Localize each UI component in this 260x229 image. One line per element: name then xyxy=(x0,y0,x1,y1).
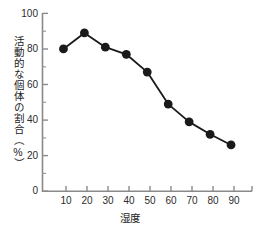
line-chart-figure: 活動的な個体の割合（%） 100 80 60 40 20 0 xyxy=(0,0,260,229)
data-point xyxy=(164,100,173,109)
series-line xyxy=(63,33,231,145)
data-point xyxy=(143,68,152,77)
data-point xyxy=(185,117,194,126)
data-point xyxy=(227,141,236,150)
data-point xyxy=(122,50,131,59)
series-markers xyxy=(59,29,235,150)
chart-screenshot: 活動的な個体の割合（%） 100 80 60 40 20 0 xyxy=(0,0,260,229)
x-axis-title: 湿度 xyxy=(0,210,260,225)
data-point xyxy=(59,45,68,54)
data-point xyxy=(206,130,215,139)
x-tick-label-90: 90 xyxy=(222,195,246,206)
data-point xyxy=(101,43,110,52)
data-point xyxy=(80,29,89,38)
